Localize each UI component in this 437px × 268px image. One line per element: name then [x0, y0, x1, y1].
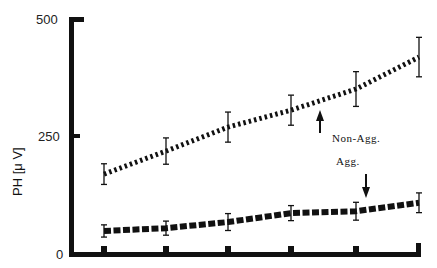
- x-axis-end-tick: [416, 243, 421, 257]
- arrow-up-head-icon: [316, 110, 324, 121]
- x-tick-2: [163, 246, 169, 254]
- y-tick-500: [69, 17, 84, 22]
- series-non-agg: [101, 37, 422, 184]
- annotation-non-agg: Non-Agg.: [316, 110, 380, 144]
- y-tick-label-250: 250: [38, 129, 60, 144]
- annotation-agg: Agg.: [336, 155, 370, 198]
- x-tick-5: [353, 246, 359, 254]
- x-tick-3: [225, 246, 231, 254]
- label-non-agg: Non-Agg.: [332, 132, 380, 144]
- chart: 500 250 0 PH [μ V] Non-Agg. Agg.: [0, 0, 437, 268]
- label-agg: Agg.: [336, 155, 360, 167]
- error-bar: [225, 112, 231, 142]
- x-axis-line: [69, 252, 421, 257]
- y-tick-label-0: 0: [56, 247, 63, 262]
- x-tick-4: [288, 246, 294, 254]
- x-tick-1: [101, 246, 107, 254]
- series-line: [104, 57, 419, 174]
- series-agg: [101, 193, 422, 237]
- error-bar: [416, 37, 422, 76]
- y-axis-title: PH [μ V]: [10, 147, 25, 196]
- y-tick-250: [69, 134, 80, 138]
- series-line: [104, 203, 419, 231]
- y-tick-label-500: 500: [36, 12, 58, 27]
- arrow-down-head-icon: [362, 187, 370, 198]
